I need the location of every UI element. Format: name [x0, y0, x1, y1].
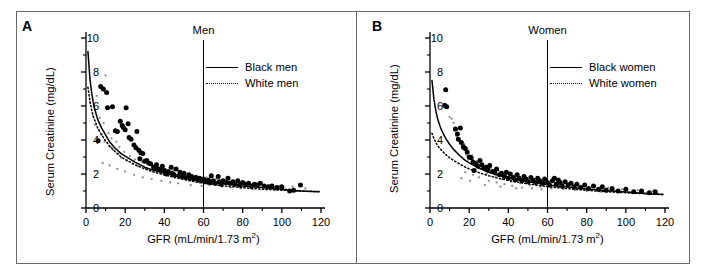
y-tick-label: 2: [77, 168, 99, 180]
x-tick-label: 60: [197, 216, 209, 228]
x-axis-label-prefix: GFR (mL/min/1.73 m: [491, 233, 595, 245]
x-tick-label: 80: [581, 216, 593, 228]
y-tick-label: 10: [77, 32, 99, 44]
legend-label: White men: [245, 78, 298, 89]
x-tick-label: 20: [463, 216, 475, 228]
panel-b-reference-line-label: Women: [528, 24, 566, 36]
panel-a-y-axis-label: Serum Creatinine (mg/dL): [44, 67, 56, 196]
x-tick-label: 120: [656, 216, 674, 228]
panel-b-y-axis-label: Serum Creatinine (mg/dL): [388, 64, 400, 193]
x-tick-label: 40: [502, 216, 514, 228]
panel-a-x-axis-label: GFR (mL/min/1.73 m2): [86, 231, 321, 245]
x-tick-label: 60: [541, 216, 553, 228]
y-tick-label: 10: [421, 32, 443, 44]
solid-line-key-icon: [206, 63, 238, 73]
x-tick-label: 80: [237, 216, 249, 228]
x-axis-label-suffix: ): [256, 233, 260, 245]
x-axis-label-prefix: GFR (mL/min/1.73 m: [147, 233, 251, 245]
legend-item-white-women: White women: [550, 76, 657, 92]
panel-a-reference-line-label: Men: [193, 24, 215, 36]
panel-a: A Serum Creatinine (mg/dL) GFR (mL/min/1…: [0, 0, 355, 280]
x-axis-label-suffix: ): [600, 233, 604, 245]
legend-item-black-women: Black women: [550, 60, 657, 76]
legend-item-white-men: White men: [206, 76, 298, 92]
y-tick-label: 2: [421, 168, 443, 180]
legend-label: Black men: [245, 62, 297, 73]
panel-b: B Serum Creatinine (mg/dL) GFR (mL/min/1…: [354, 0, 709, 280]
dotted-line-key-icon: [550, 79, 582, 89]
x-tick-label: 120: [312, 216, 330, 228]
y-tick-label: 8: [421, 66, 443, 78]
legend-label: White women: [589, 78, 657, 89]
y-tick-label: 0: [77, 202, 99, 214]
legend-label: Black women: [589, 62, 656, 73]
panel-a-legend: Black men White men: [206, 60, 298, 92]
y-tick-label: 0: [421, 202, 443, 214]
solid-line-key-icon: [550, 63, 582, 73]
x-tick-label: 100: [273, 216, 291, 228]
dotted-line-key-icon: [206, 79, 238, 89]
y-tick-label: 4: [421, 134, 443, 146]
x-tick-label: 40: [158, 216, 170, 228]
panel-b-legend: Black women White women: [550, 60, 657, 92]
y-tick-label: 4: [77, 134, 99, 146]
legend-item-black-men: Black men: [206, 60, 298, 76]
panel-b-x-axis-label: GFR (mL/min/1.73 m2): [430, 231, 665, 245]
x-tick-label: 100: [617, 216, 635, 228]
x-tick-label: 0: [83, 216, 89, 228]
y-tick-label: 8: [77, 66, 99, 78]
x-tick-label: 0: [427, 216, 433, 228]
y-tick-label: 6: [421, 100, 443, 112]
y-tick-label: 6: [77, 100, 99, 112]
x-tick-label: 20: [119, 216, 131, 228]
figure-root: A Serum Creatinine (mg/dL) GFR (mL/min/1…: [0, 0, 709, 280]
